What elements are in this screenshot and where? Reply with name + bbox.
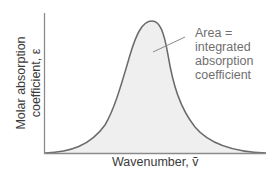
annotation-line-1: Area =	[195, 26, 253, 40]
annotation-line-3: absorption	[195, 54, 253, 68]
y-axis-label-line-2: coefficient, ε	[29, 28, 44, 138]
annotation-line-4: coefficient	[195, 68, 253, 82]
y-axis-label: Molar absorption coefficient, ε	[14, 28, 44, 138]
x-axis-label: Wavenumber, ṽ	[112, 155, 198, 170]
area-annotation: Area = integrated absorption coefficient	[195, 26, 253, 82]
absorption-band-figure: Molar absorption coefficient, ε Wavenumb…	[0, 0, 280, 181]
annotation-line-2: integrated	[195, 40, 253, 54]
y-axis-label-line-1: Molar absorption	[14, 28, 29, 138]
